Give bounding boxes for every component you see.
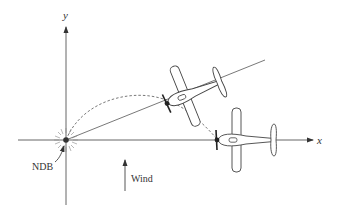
x-axis-label: x <box>316 134 322 146</box>
ndb-pointer-arrow <box>55 146 64 162</box>
airplane-icon-x-axis <box>215 108 277 172</box>
wind-label: Wind <box>131 173 153 184</box>
airplane-icon-bearing <box>153 51 234 133</box>
y-axis-label: y <box>62 9 68 21</box>
ndb-wind-diagram: y x NDB <box>0 0 339 212</box>
ndb-label: NDB <box>32 161 53 172</box>
ndb-beacon-icon <box>54 128 78 152</box>
